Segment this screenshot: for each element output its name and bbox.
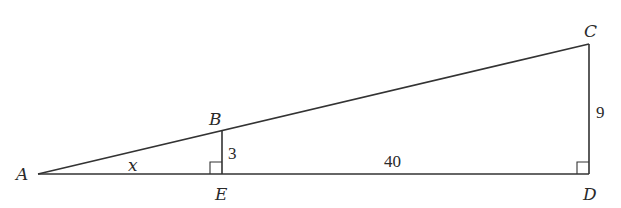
label-point-c: C [584, 21, 597, 41]
triangle-diagram: A B C D E x 3 40 9 [0, 0, 621, 208]
label-point-a: A [14, 164, 28, 184]
right-angle-marker-e [210, 162, 222, 174]
label-length-be: 3 [228, 144, 237, 163]
label-length-ed: 40 [384, 152, 401, 171]
label-point-e: E [214, 184, 228, 204]
segment-ac [38, 44, 589, 174]
label-point-d: D [582, 184, 597, 204]
label-angle-x: x [128, 155, 138, 175]
label-length-cd: 9 [596, 103, 605, 122]
right-angle-marker-d [577, 162, 589, 174]
label-point-b: B [208, 109, 222, 129]
